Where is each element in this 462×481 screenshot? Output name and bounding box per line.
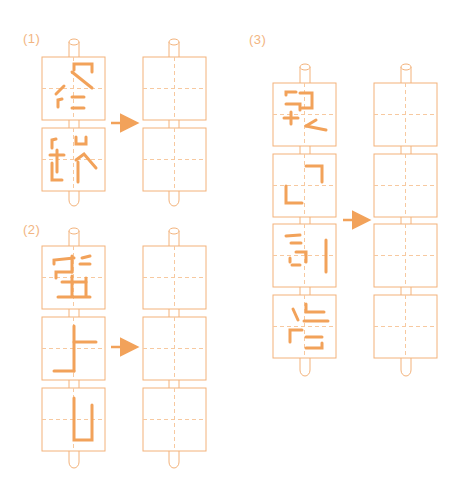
blank-tile: [374, 224, 437, 287]
blank-tile: [143, 388, 206, 451]
blank-tile: [143, 128, 206, 191]
source-tile: [273, 295, 336, 358]
blank-tile: [143, 246, 206, 309]
blank-tile: [143, 57, 206, 120]
source-tile: [273, 154, 336, 217]
source-tile: [42, 57, 105, 120]
source-tile: [42, 246, 105, 309]
source-tile: [42, 388, 105, 451]
diagram-canvas: [0, 0, 462, 481]
problem-2: [42, 228, 206, 468]
blank-tile: [374, 83, 437, 146]
problem-3: [273, 64, 437, 376]
source-tile: [42, 317, 105, 380]
blank-tile: [143, 317, 206, 380]
blank-tile: [374, 154, 437, 217]
source-tile: [273, 224, 336, 287]
source-tile: [273, 83, 336, 146]
source-tile: [42, 128, 105, 191]
problem-1: [42, 39, 206, 206]
blank-tile: [374, 295, 437, 358]
